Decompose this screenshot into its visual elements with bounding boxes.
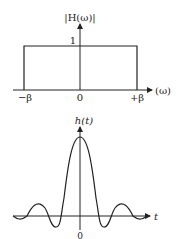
diagram: |H(ω)| 1 −β 0 +β (ω) h(t) t 0	[0, 0, 179, 239]
magnitude-plot: |H(ω)| 1 −β 0 +β (ω)	[13, 12, 171, 103]
t-label: t	[154, 211, 159, 222]
magnitude-label: |H(ω)|	[64, 12, 95, 24]
tick-zero: 0	[77, 92, 83, 103]
impulse-plot: h(t) t 0	[13, 115, 159, 239]
tick-neg-beta: −β	[18, 92, 32, 103]
origin-label: 0	[77, 231, 83, 239]
omega-label: (ω)	[155, 85, 171, 96]
level-label: 1	[70, 35, 76, 46]
h-label: h(t)	[75, 115, 93, 126]
tick-pos-beta: +β	[130, 92, 144, 103]
